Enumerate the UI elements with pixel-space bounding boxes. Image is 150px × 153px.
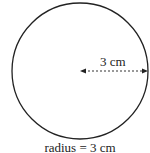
arrow-left-icon — [80, 69, 86, 74]
circle-diagram: 3 cm radius = 3 cm — [0, 0, 150, 153]
arrow-right-icon — [142, 69, 148, 74]
caption: radius = 3 cm — [44, 140, 115, 153]
radius-label: 3 cm — [100, 54, 126, 69]
